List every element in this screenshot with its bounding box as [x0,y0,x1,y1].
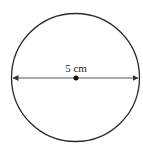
center-point [74,76,79,81]
circle-diagram: 5 cm [0,0,143,144]
diameter-label: 5 cm [65,62,87,74]
